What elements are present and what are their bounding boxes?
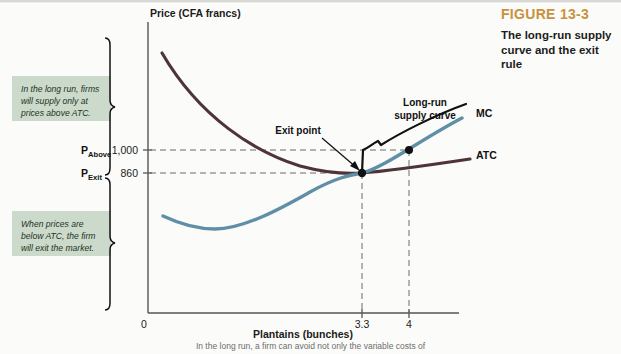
y-tick-label-860: 860 (120, 167, 138, 179)
x-origin-label: 0 (141, 318, 147, 330)
price-exit-subscript: Exit (88, 173, 102, 182)
brace-below-atc (105, 178, 115, 310)
x-tick-label-3-3: 3.3 (355, 318, 370, 330)
exit-point-label: Exit point (275, 125, 321, 136)
price-exit-label: PExit (81, 167, 102, 182)
price-above-base: P (81, 144, 88, 156)
p-above-point-dot (405, 146, 413, 154)
figure-chart: Price (CFA francs) Plantains (bunches) 1… (0, 0, 621, 354)
mc-curve-label: MC (476, 107, 493, 119)
figure-page: FIGURE 13-3 The long-run supply curve an… (0, 0, 621, 354)
price-exit-base: P (81, 167, 88, 179)
y-axis-title: Price (CFA francs) (150, 7, 241, 19)
price-above-subscript: Above (88, 150, 111, 159)
y-tick-label-1000: 1,000 (112, 144, 138, 156)
exit-point-leader (322, 138, 357, 168)
x-tick-label-4: 4 (406, 318, 412, 330)
atc-curve-label: ATC (476, 149, 497, 161)
price-above-label: PAbove (81, 144, 111, 159)
page-body-text: In the long run, a firm can avoid not on… (0, 341, 621, 354)
x-axis-title: Plantains (bunches) (253, 328, 353, 340)
long-run-supply-label-line1: Long-run (403, 97, 447, 108)
long-run-supply-label-line2: supply curve (394, 110, 456, 121)
